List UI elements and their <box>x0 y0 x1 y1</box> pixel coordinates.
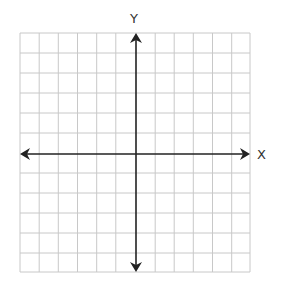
grid-svg <box>0 0 283 281</box>
y-axis <box>130 33 142 272</box>
x-axis <box>20 148 250 160</box>
grid-lines <box>20 33 250 272</box>
y-axis-label: Y <box>130 12 138 25</box>
x-axis-label: X <box>257 148 266 161</box>
